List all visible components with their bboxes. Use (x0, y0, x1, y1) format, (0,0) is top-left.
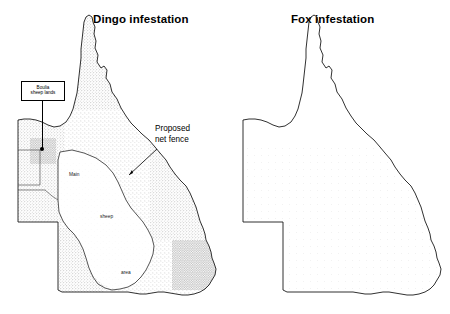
callout-boulia-sheep-lands: Boulia sheep lands (21, 81, 65, 101)
callout-anchor-dot (40, 147, 44, 151)
fence-line-1: Proposed (155, 124, 190, 135)
map-fox (225, 0, 450, 314)
map-dingo (0, 0, 225, 314)
map-label-sheep: sheep (100, 214, 113, 219)
map-label-main: Main (69, 172, 79, 177)
panel-fox-infestation: Fox infestation (225, 0, 450, 314)
callout-leader-line (42, 101, 43, 150)
dingo-density-fill (0, 0, 225, 314)
fox-density-fill (225, 0, 450, 314)
fence-line-2: net fence (155, 135, 190, 146)
panel-dingo-infestation: Dingo infestation (0, 0, 225, 314)
figure-two-panel-maps: Dingo infestation (0, 0, 450, 314)
map-label-area: area (121, 270, 131, 275)
fence-leader-line-icon (128, 148, 158, 178)
fence-annotation: Proposed net fence (155, 124, 190, 145)
callout-line-2: sheep lands (31, 91, 56, 96)
